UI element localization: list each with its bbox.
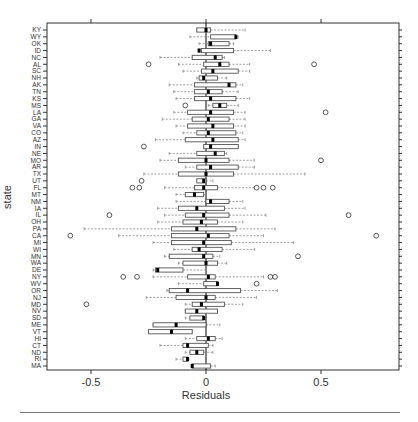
- outlier-point: [346, 213, 351, 218]
- outlier-point: [323, 110, 328, 115]
- outlier-point: [273, 274, 278, 279]
- outlier-point: [268, 274, 273, 279]
- median-marker: [211, 138, 214, 142]
- median-marker: [214, 151, 217, 155]
- median-marker: [205, 158, 208, 162]
- outlier-point: [319, 158, 324, 163]
- box-va: [188, 124, 234, 128]
- box-ga: [192, 117, 229, 121]
- outlier-point: [312, 62, 317, 67]
- box-wi: [192, 247, 222, 251]
- median-marker: [218, 62, 221, 66]
- box-ky: [197, 28, 211, 32]
- median-marker: [209, 165, 212, 169]
- box-co: [197, 131, 236, 135]
- median-marker: [205, 172, 208, 176]
- box-al: [204, 62, 229, 66]
- median-marker: [200, 220, 203, 224]
- box-ca: [172, 234, 230, 238]
- outlier-point: [146, 62, 151, 67]
- box-me: [153, 323, 206, 327]
- outlier-point: [142, 144, 147, 149]
- box-nc: [192, 55, 222, 59]
- median-marker: [207, 234, 210, 238]
- median-marker: [211, 124, 214, 128]
- box-nj: [176, 295, 215, 299]
- median-marker: [202, 240, 205, 244]
- median-marker: [205, 261, 208, 265]
- box-ar: [197, 165, 238, 169]
- box-ks: [195, 96, 236, 100]
- median-marker: [202, 76, 205, 80]
- median-marker: [202, 179, 205, 183]
- outlier-point: [261, 185, 266, 190]
- box-mo: [178, 158, 229, 162]
- median-marker: [207, 90, 210, 94]
- median-marker: [170, 330, 173, 334]
- outlier-point: [374, 233, 379, 238]
- x-tick-label: -0.5: [82, 376, 101, 388]
- median-marker: [209, 144, 212, 148]
- plot-area: -0.500.5KYWYOKIDNCALSCNHAKTNKSMSLAGAVACO…: [31, 19, 402, 388]
- box-pa: [172, 227, 236, 231]
- box-md: [192, 302, 224, 306]
- median-marker: [209, 110, 212, 114]
- median-marker: [156, 268, 159, 272]
- box-ne: [197, 151, 225, 155]
- median-marker: [186, 288, 189, 292]
- median-marker: [214, 55, 217, 59]
- median-marker: [186, 343, 189, 347]
- median-marker: [205, 28, 208, 32]
- bottom-separator: [20, 412, 400, 413]
- median-marker: [200, 302, 203, 306]
- y-tick-label-ma: MA: [31, 362, 41, 369]
- outlier-point: [130, 185, 135, 190]
- box-hi: [197, 336, 215, 340]
- median-marker: [202, 316, 205, 320]
- median-marker: [205, 295, 208, 299]
- median-marker: [175, 323, 178, 327]
- box-il: [185, 213, 229, 217]
- median-marker: [193, 192, 196, 196]
- median-marker: [202, 213, 205, 217]
- box-ny: [188, 275, 216, 279]
- x-tick-label: 0: [203, 376, 209, 388]
- plot-frame: [47, 23, 399, 370]
- box-mi: [172, 240, 232, 244]
- median-marker: [186, 357, 189, 361]
- median-marker: [195, 206, 198, 210]
- box-nh: [199, 76, 217, 80]
- median-marker: [207, 275, 210, 279]
- boxplot-chart: -0.500.5KYWYOKIDNCALSCNHAKTNKSMSLAGAVACO…: [0, 0, 418, 422]
- box-de: [155, 268, 183, 272]
- median-marker: [209, 199, 212, 203]
- median-marker: [202, 254, 205, 258]
- median-marker: [191, 364, 194, 368]
- outlier-point: [254, 281, 259, 286]
- outlier-point: [121, 274, 126, 279]
- box-wa: [183, 261, 218, 265]
- median-marker: [211, 69, 214, 73]
- median-marker: [195, 309, 198, 313]
- x-axis-label: Residuals: [182, 389, 231, 401]
- median-marker: [216, 282, 219, 286]
- outlier-point: [137, 185, 142, 190]
- median-marker: [207, 131, 210, 135]
- y-axis-label: state: [1, 185, 13, 209]
- box-or: [169, 288, 240, 292]
- outlier-point: [139, 178, 144, 183]
- outlier-point: [68, 233, 73, 238]
- median-marker: [198, 247, 201, 251]
- outlier-point: [183, 103, 188, 108]
- box-in: [204, 144, 239, 148]
- median-marker: [195, 350, 198, 354]
- outlier-point: [296, 254, 301, 259]
- box-fl: [195, 186, 218, 190]
- x-tick-label: 0.5: [313, 376, 328, 388]
- box-ma: [192, 364, 210, 368]
- median-marker: [207, 117, 210, 121]
- outlier-point: [270, 185, 275, 190]
- median-marker: [234, 35, 237, 39]
- box-ia: [178, 206, 224, 210]
- median-marker: [202, 186, 205, 190]
